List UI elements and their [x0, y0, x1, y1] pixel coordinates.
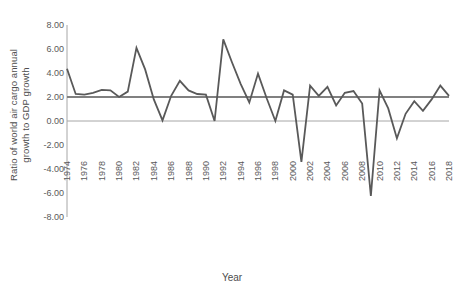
x-tick-label: 1976 [80, 161, 89, 181]
x-tick-label: 1998 [271, 161, 280, 181]
x-tick-label: 2008 [358, 161, 367, 181]
x-tick-label: 1996 [254, 161, 263, 181]
x-axis-tick-labels: 1974197619781980198219841986198819901992… [67, 161, 449, 206]
y-axis-title-line-2: growth to GDP growth [20, 49, 32, 181]
x-axis-title: Year [0, 272, 464, 283]
x-tick-label: 2004 [323, 161, 332, 181]
y-tick-label: 0.00 [34, 116, 64, 126]
y-axis-title-line-1: Ratio of world air cargo annual [8, 49, 20, 181]
y-axis-tick-labels: 8.006.004.002.000.00-2.00-4.00-6.00-8.00 [34, 20, 64, 220]
x-tick-label: 2006 [341, 161, 350, 181]
x-tick-label: 1984 [150, 161, 159, 181]
x-tick-label: 1982 [132, 161, 141, 181]
x-tick-label: 2016 [428, 161, 437, 181]
x-tick-label: 1992 [219, 161, 228, 181]
x-tick-label: 2018 [445, 161, 454, 181]
y-tick-label: 4.00 [34, 68, 64, 78]
y-tick-label: 2.00 [34, 92, 64, 102]
x-tick-label: 1974 [63, 161, 72, 181]
x-tick-label: 1988 [185, 161, 194, 181]
x-tick-label: 1990 [202, 161, 211, 181]
y-tick-label: 8.00 [34, 20, 64, 30]
x-tick-label: 1994 [237, 161, 246, 181]
y-tick-label: 6.00 [34, 44, 64, 54]
x-tick-label: 2000 [289, 161, 298, 181]
y-tick-label: -4.00 [34, 164, 64, 174]
line-chart: Ratio of world air cargo annual growth t… [0, 0, 464, 308]
x-tick-label: 1980 [115, 161, 124, 181]
x-tick-label: 2012 [393, 161, 402, 181]
x-tick-label: 2002 [306, 161, 315, 181]
y-tick-label: -6.00 [34, 188, 64, 198]
y-tick-label: -8.00 [34, 212, 64, 222]
y-tick-label: -2.00 [34, 140, 64, 150]
x-tick-label: 2010 [376, 161, 385, 181]
x-tick-label: 1986 [167, 161, 176, 181]
x-tick-label: 1978 [98, 161, 107, 181]
x-tick-label: 2014 [410, 161, 419, 181]
